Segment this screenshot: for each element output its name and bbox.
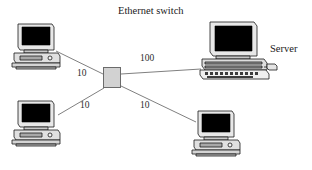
link-switch-pc3 [121,86,196,122]
page-title: Ethernet switch [118,6,184,17]
desktop-computer-bottom-left [8,97,62,147]
server-computer [196,20,278,82]
desktop-computer-bottom-right [188,107,242,159]
link-switch-server [121,69,201,74]
link-speed-label-server: 100 [140,54,154,64]
ethernet-switch-node [103,67,121,88]
network-diagram: Ethernet switch Server 10 100 10 10 [0,0,312,170]
link-speed-label-pc3: 10 [140,101,150,111]
link-speed-label-pc2: 10 [80,101,90,111]
desktop-computer-top-left [8,20,62,70]
server-label: Server [270,44,297,55]
link-speed-label-pc1: 10 [77,69,87,79]
